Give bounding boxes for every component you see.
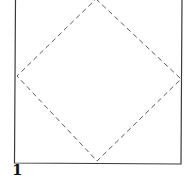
paper-square-outline xyxy=(15,0,183,164)
fold-diagram xyxy=(0,0,188,180)
step-number: 1 xyxy=(12,163,22,178)
fold-line-diamond xyxy=(17,0,181,161)
